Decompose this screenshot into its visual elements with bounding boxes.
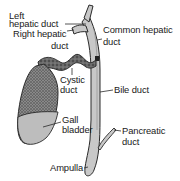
left-hepatic-duct <box>84 5 93 22</box>
label-pancreatic-line1: Pancreatic <box>122 126 165 136</box>
right-hepatic-duct <box>72 25 88 34</box>
common-bile-duct <box>82 14 100 176</box>
label-ampulla: Ampulla <box>50 163 83 173</box>
label-cystic-line2: duct <box>60 85 77 95</box>
label-pancreatic-line2: duct <box>122 137 139 147</box>
pancreatic-duct <box>98 128 116 150</box>
label-right-hepatic-line2: duct <box>51 41 68 51</box>
gallbladder <box>18 64 58 144</box>
biliary-diagram: Left hepatic duct Right hepatic duct Com… <box>0 0 180 181</box>
label-gallbladder-line2: bladder <box>62 125 93 135</box>
label-common-hepatic-line2: duct <box>103 37 120 47</box>
label-bile-duct: Bile duct <box>114 85 149 95</box>
label-right-hepatic-line1: Right hepatic <box>13 29 66 39</box>
label-common-hepatic-line1: Common hepatic <box>103 25 172 35</box>
